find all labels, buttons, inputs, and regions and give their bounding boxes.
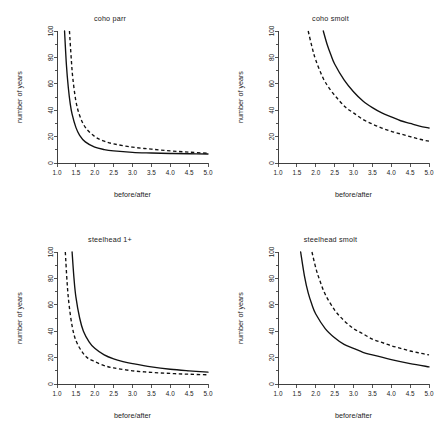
x-tick-label: 2.0 bbox=[311, 169, 320, 176]
x-tick-label: 1.0 bbox=[273, 169, 282, 176]
curve-dashed bbox=[69, 31, 208, 153]
y-tick-label: 0 bbox=[267, 161, 274, 165]
x-tick-label: 4.5 bbox=[185, 390, 194, 397]
y-tick-label: 80 bbox=[47, 53, 54, 61]
panel-steelhead-1plus: steelhead 1+ 1.01.52.02.53.03.54.04.55.0… bbox=[0, 221, 220, 442]
curve-dashed bbox=[65, 252, 208, 375]
x-tick-label: 3.0 bbox=[349, 390, 358, 397]
x-tick-label: 2.0 bbox=[90, 390, 99, 397]
x-tick-label: 1.0 bbox=[273, 390, 282, 397]
x-tick-label: 1.5 bbox=[71, 390, 80, 397]
y-tick-label: 60 bbox=[47, 301, 54, 309]
y-tick-label: 60 bbox=[47, 80, 54, 88]
x-tick-label: 2.5 bbox=[109, 169, 118, 176]
y-tick-label: 80 bbox=[267, 274, 274, 282]
y-axis-label: number of years bbox=[236, 292, 245, 344]
plot-area-coho-parr: 1.01.52.02.53.03.54.04.55.0020406080100b… bbox=[0, 0, 220, 221]
y-tick-label: 40 bbox=[47, 106, 54, 114]
plot-area-steelhead-1plus: 1.01.52.02.53.03.54.04.55.0020406080100b… bbox=[0, 221, 220, 442]
y-tick-label: 80 bbox=[47, 274, 54, 282]
x-tick-label: 3.0 bbox=[128, 390, 137, 397]
x-tick-label: 2.5 bbox=[109, 390, 118, 397]
curve-solid bbox=[300, 252, 428, 367]
x-tick-label: 4.0 bbox=[166, 169, 175, 176]
curve-dashed bbox=[308, 31, 429, 141]
x-tick-label: 3.0 bbox=[128, 169, 137, 176]
x-tick-label: 4.5 bbox=[405, 169, 414, 176]
figure-canvas: coho parr 1.01.52.02.53.03.54.04.55.0020… bbox=[0, 0, 441, 442]
y-tick-label: 40 bbox=[267, 327, 274, 335]
curve-solid bbox=[65, 31, 208, 154]
plot-area-steelhead-smolt: 1.01.52.02.53.03.54.04.55.0020406080100b… bbox=[221, 221, 441, 442]
panel-coho-parr: coho parr 1.01.52.02.53.03.54.04.55.0020… bbox=[0, 0, 220, 221]
y-tick-label: 40 bbox=[47, 327, 54, 335]
curve-dashed bbox=[311, 252, 428, 355]
x-tick-label: 1.5 bbox=[292, 169, 301, 176]
x-tick-label: 3.5 bbox=[367, 169, 376, 176]
y-tick-label: 100 bbox=[267, 25, 274, 36]
x-tick-label: 3.5 bbox=[147, 390, 156, 397]
x-tick-label: 2.0 bbox=[90, 169, 99, 176]
y-tick-label: 100 bbox=[267, 246, 274, 257]
x-axis-label: before/after bbox=[335, 190, 372, 199]
x-axis-label: before/after bbox=[114, 411, 151, 420]
panel-coho-smolt: coho smolt 1.01.52.02.53.03.54.04.55.002… bbox=[221, 0, 441, 221]
x-tick-label: 2.0 bbox=[311, 390, 320, 397]
x-tick-label: 4.5 bbox=[185, 169, 194, 176]
x-tick-label: 5.0 bbox=[424, 390, 433, 397]
y-tick-label: 100 bbox=[47, 246, 54, 257]
y-tick-label: 60 bbox=[267, 80, 274, 88]
y-tick-label: 20 bbox=[47, 354, 54, 362]
y-tick-label: 20 bbox=[267, 133, 274, 141]
plot-area-coho-smolt: 1.01.52.02.53.03.54.04.55.0020406080100b… bbox=[221, 0, 441, 221]
y-axis-label: number of years bbox=[15, 71, 24, 123]
y-tick-label: 20 bbox=[47, 133, 54, 141]
x-axis-label: before/after bbox=[335, 411, 372, 420]
x-tick-label: 4.0 bbox=[386, 169, 395, 176]
y-tick-label: 0 bbox=[47, 382, 54, 386]
y-tick-label: 80 bbox=[267, 53, 274, 61]
x-tick-label: 4.0 bbox=[386, 390, 395, 397]
x-tick-label: 5.0 bbox=[204, 169, 213, 176]
x-tick-label: 1.0 bbox=[53, 169, 62, 176]
curve-solid bbox=[72, 252, 208, 372]
y-axis-label: number of years bbox=[15, 292, 24, 344]
x-tick-label: 3.0 bbox=[349, 169, 358, 176]
y-tick-label: 0 bbox=[267, 382, 274, 386]
x-tick-label: 4.5 bbox=[405, 390, 414, 397]
y-tick-label: 40 bbox=[267, 106, 274, 114]
x-tick-label: 2.5 bbox=[330, 169, 339, 176]
curve-solid bbox=[323, 31, 429, 128]
y-axis-label: number of years bbox=[236, 71, 245, 123]
x-tick-label: 5.0 bbox=[424, 169, 433, 176]
y-tick-label: 100 bbox=[47, 25, 54, 36]
x-tick-label: 2.5 bbox=[330, 390, 339, 397]
y-tick-label: 0 bbox=[47, 161, 54, 165]
x-tick-label: 1.0 bbox=[53, 390, 62, 397]
y-tick-label: 20 bbox=[267, 354, 274, 362]
x-tick-label: 4.0 bbox=[166, 390, 175, 397]
panel-steelhead-smolt: steelhead smolt 1.01.52.02.53.03.54.04.5… bbox=[221, 221, 441, 442]
x-tick-label: 3.5 bbox=[147, 169, 156, 176]
x-tick-label: 3.5 bbox=[367, 390, 376, 397]
y-tick-label: 60 bbox=[267, 301, 274, 309]
x-tick-label: 1.5 bbox=[292, 390, 301, 397]
x-tick-label: 5.0 bbox=[204, 390, 213, 397]
x-tick-label: 1.5 bbox=[71, 169, 80, 176]
x-axis-label: before/after bbox=[114, 190, 151, 199]
